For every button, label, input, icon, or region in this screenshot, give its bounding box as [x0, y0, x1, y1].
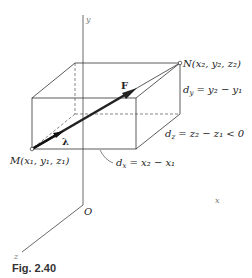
force-label: F — [121, 80, 128, 91]
point-n — [178, 61, 182, 65]
dx-leader-line — [100, 150, 113, 163]
lambda-label: λ — [62, 136, 69, 147]
x-axis-label: x — [215, 196, 220, 205]
figure-caption: Fig. 2.40 — [12, 262, 56, 274]
z-axis-label: z — [13, 252, 19, 261]
svg-text:dy = y₂ − y₁: dy = y₂ − y₁ — [183, 84, 242, 97]
dx-label: dx = x₂ − x₁ — [116, 157, 175, 170]
point-n-label: N(x₂, y₂, z₂) — [182, 58, 241, 69]
unit-vector — [32, 134, 58, 149]
figure-diagram: y x z O F λ M(x₁, y₁, z₁) N(x₂, y₂, z₂) … — [0, 0, 252, 278]
z-axis — [22, 205, 83, 252]
origin-label: O — [84, 206, 92, 217]
dy-label: dy = y₂ − y₁ — [183, 84, 242, 97]
y-axis-label: y — [85, 15, 91, 24]
point-m — [30, 147, 34, 151]
point-m-label: M(x₁, y₁, z₁) — [9, 155, 69, 166]
svg-text:dz = z₂ − z₁ < 0: dz = z₂ − z₁ < 0 — [165, 128, 245, 141]
svg-text:dx = x₂ − x₁: dx = x₂ − x₁ — [116, 157, 175, 170]
dz-label: dz = z₂ − z₁ < 0 — [165, 128, 245, 141]
